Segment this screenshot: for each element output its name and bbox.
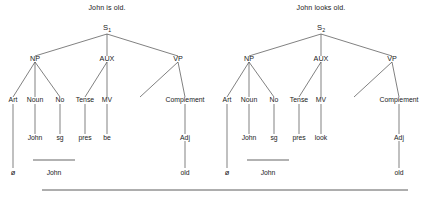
node-art-left: Art (9, 97, 18, 104)
node-aux-left: AUX (100, 55, 115, 62)
node-tense-right: Tense (290, 97, 308, 104)
figure-canvas: John is old. S1 NP AUX VP Art Noun No Te… (0, 0, 428, 200)
terminal-john-left: John (47, 170, 62, 177)
root-subscript: 2 (322, 27, 325, 33)
node-art-right: Art (223, 97, 232, 104)
node-tense-left: Tense (76, 97, 94, 104)
tree-root-right: S2 (317, 24, 325, 32)
node-noun-left: Noun (27, 97, 43, 104)
terminal-john-right: John (261, 170, 276, 177)
node-no-right: No (270, 97, 279, 104)
node-aux-right: AUX (314, 55, 329, 62)
node-np-left: NP (30, 55, 40, 62)
root-subscript: 1 (108, 27, 111, 33)
node-complement-left: Complement (165, 97, 204, 104)
tree-caption-left: John is old. (88, 5, 125, 12)
tree-root-left: S1 (103, 24, 111, 32)
terminal-noun-right: John (242, 135, 257, 142)
terminal-tense-left: pres (78, 135, 91, 142)
node-mv-left: MV (102, 97, 112, 104)
node-noun-right: Noun (241, 97, 257, 104)
terminal-mv-left: be (103, 135, 111, 142)
terminal-no-left: sg (56, 135, 63, 142)
terminal-noun-left: John (28, 135, 43, 142)
node-adj-left: Adj (180, 135, 190, 142)
terminal-null-left: ø (11, 169, 16, 177)
tree-caption-right: John looks old. (297, 5, 346, 12)
node-vp-right: VP (387, 55, 397, 62)
terminal-tense-right: pres (292, 135, 305, 142)
terminal-old-left: old (180, 170, 189, 177)
node-np-right: NP (244, 55, 254, 62)
node-vp-left: VP (173, 55, 183, 62)
node-adj-right: Adj (394, 135, 404, 142)
terminal-null-right: ø (225, 169, 230, 177)
node-mv-right: MV (316, 97, 326, 104)
terminal-old-right: old (394, 170, 403, 177)
node-complement-right: Complement (379, 97, 418, 104)
node-no-left: No (56, 97, 65, 104)
terminal-mv-right: look (315, 135, 327, 142)
terminal-no-right: sg (270, 135, 277, 142)
